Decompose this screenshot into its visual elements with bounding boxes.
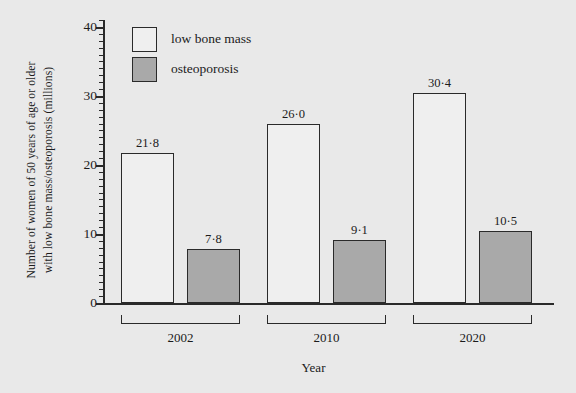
y-tick-minor [99,110,105,111]
legend-swatch-icon-osteoporosis [132,57,157,82]
y-tick-minor [99,144,105,145]
y-tick-minor [99,82,105,83]
group-bracket-2010 [267,315,386,324]
bar-value-label: 30·4 [428,77,451,90]
y-tick-minor [99,248,105,249]
group-label-2020: 2020 [460,331,486,344]
y-tick-minor [99,255,105,256]
y-tick-minor [99,220,105,221]
bar-value-label: 26·0 [282,108,305,121]
y-tick-minor [99,213,105,214]
y-tick-minor [99,268,105,269]
y-axis-title-line2: with low bone mass/osteoporosis (million… [40,61,57,278]
legend-label-low-bone-mass: low bone mass [171,32,251,46]
y-tick-minor [99,117,105,118]
group-bracket-2020 [413,315,532,324]
legend-label-osteoporosis: osteoporosis [171,62,239,76]
y-tick-minor [99,68,105,69]
legend-swatch-icon-low-bone-mass [132,27,157,52]
x-axis-title: Year [302,361,326,374]
y-axis-title-line1: Number of women of 50 years of age or ol… [23,61,40,278]
y-tick-minor [99,103,105,104]
y-tick-minor [99,137,105,138]
y-tick-minor [99,275,105,276]
y-tick-minor [99,227,105,228]
y-tick-minor [99,296,105,297]
y-tick-minor [99,34,105,35]
y-tick-minor [99,199,105,200]
y-tick-label: 0 [90,296,97,310]
bar-2020-low-bone-mass [413,93,466,303]
y-tick-minor [99,282,105,283]
bar-value-label: 10·5 [494,215,517,228]
y-tick-minor [99,289,105,290]
y-tick-minor [99,186,105,187]
y-tick-minor [99,55,105,56]
y-tick-minor [99,130,105,131]
bar-value-label: 7·8 [205,233,222,246]
y-tick-minor [99,206,105,207]
y-tick-minor [99,158,105,159]
y-tick-label: 10 [84,227,98,241]
y-tick-minor [99,241,105,242]
y-tick-minor [99,124,105,125]
bar-2020-osteoporosis [479,231,532,303]
bar-value-label: 21·8 [136,137,159,150]
y-tick-minor [99,75,105,76]
legend-item-low-bone-mass[interactable]: low bone mass [132,24,251,54]
y-tick-label: 30 [84,89,98,103]
legend-item-osteoporosis[interactable]: osteoporosis [132,54,251,84]
bar-2010-osteoporosis [333,240,386,303]
y-tick-minor [99,89,105,90]
bar-2002-low-bone-mass [121,153,174,303]
y-tick-minor [99,193,105,194]
y-tick-minor [99,48,105,49]
y-tick-minor [99,172,105,173]
group-bracket-2002 [121,315,240,324]
group-label-2010: 2010 [314,331,340,344]
bar-2010-low-bone-mass [267,124,320,303]
y-tick-minor [99,151,105,152]
bar-value-label: 9·1 [351,224,368,237]
y-tick-minor [99,41,105,42]
y-tick-minor [99,179,105,180]
bar-2002-osteoporosis [187,249,240,303]
y-tick-minor [99,61,105,62]
bar-chart: Number of women of 50 years of age or ol… [0,0,576,393]
y-tick-minor [99,262,105,263]
y-axis-title: Number of women of 50 years of age or ol… [12,0,68,340]
y-tick-minor [99,20,105,21]
x-axis-line [103,303,554,305]
group-label-2002: 2002 [168,331,194,344]
y-tick-label: 40 [84,20,98,34]
y-tick-mark [96,303,105,305]
y-tick-label: 20 [84,158,98,172]
legend: low bone mass osteoporosis [132,24,251,84]
